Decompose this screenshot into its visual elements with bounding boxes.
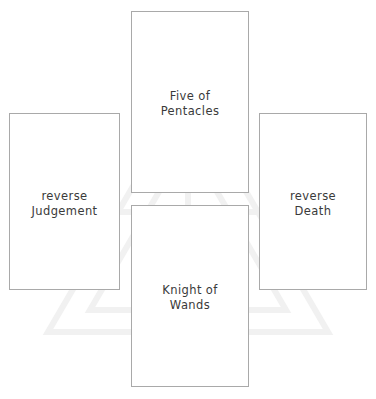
tarot-card-east[interactable]: reverse Death	[259, 113, 367, 290]
tarot-card-south[interactable]: Knight of Wands	[131, 205, 249, 387]
tarot-card-north[interactable]: Five of Pentacles	[131, 11, 249, 193]
tarot-card-west[interactable]: reverse Judgement	[9, 113, 120, 290]
tarot-card-south-label: Knight of Wands	[132, 283, 248, 313]
tarot-card-north-label: Five of Pentacles	[132, 89, 248, 119]
tarot-card-east-label: reverse Death	[260, 189, 366, 219]
tarot-card-spread: Five of Pentacles Knight of Wands revers…	[0, 0, 376, 399]
tarot-card-west-label: reverse Judgement	[10, 189, 119, 219]
